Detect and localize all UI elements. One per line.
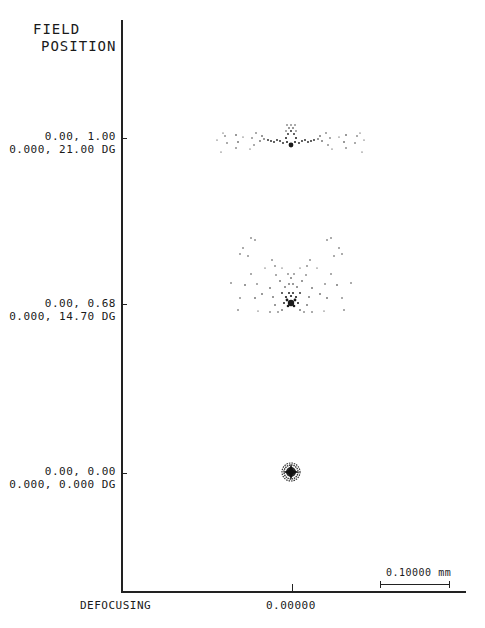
spot-patterns <box>0 0 485 628</box>
spot-pattern-field-3 <box>282 463 300 481</box>
spot-pattern-field-1 <box>216 124 364 152</box>
spot-pattern-field-2 <box>230 237 351 312</box>
